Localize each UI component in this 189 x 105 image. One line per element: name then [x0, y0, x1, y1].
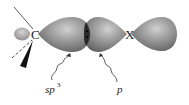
- p-label: p: [116, 83, 123, 95]
- orbital-diagram: C X sp 3 p: [0, 0, 189, 105]
- x-back-lobe: [131, 17, 177, 51]
- sp3-label: sp: [45, 83, 55, 95]
- bond-line-upper: [14, 7, 33, 29]
- carbon-label: C: [31, 27, 40, 42]
- sp3-lobe: [38, 17, 90, 52]
- bond-wedge: [20, 40, 33, 68]
- p-pointer-arrow: [101, 54, 117, 82]
- back-lobe: [14, 28, 30, 41]
- p-lobe: [84, 17, 127, 52]
- sp3-superscript: 3: [57, 81, 61, 89]
- electron-dot: [86, 30, 88, 32]
- sp3-pointer-arrow: [52, 54, 70, 80]
- leaving-group-label: X: [125, 27, 135, 42]
- sp3-arrowhead-icon: [66, 53, 71, 57]
- electron-dot: [86, 36, 88, 38]
